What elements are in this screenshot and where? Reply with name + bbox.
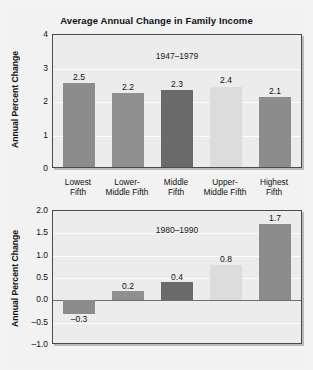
category-axis-labels: Lowest Fifth Lower- Middle Fifth Middle … <box>52 178 302 202</box>
bar-lowest-fifth <box>63 300 95 313</box>
bar-value-label: 2.1 <box>259 86 291 96</box>
y-tick-label: 0.0 <box>22 294 48 304</box>
category-label-line1: Lowest <box>65 177 91 187</box>
plot-area-top: 1947–1979 2.5 2.2 2.3 2.4 2.1 <box>52 34 302 168</box>
gridline <box>53 69 301 70</box>
bar-value-label: –0.3 <box>63 314 95 324</box>
category-label-line2: Fifth <box>266 187 282 197</box>
y-tick-label: 0.5 <box>22 272 48 282</box>
bar-value-label: 0.2 <box>112 281 144 291</box>
y-tick-label: 2.0 <box>22 205 48 215</box>
category-label-line2: Fifth <box>70 187 86 197</box>
bar-value-label: 2.4 <box>210 75 242 85</box>
chart-top: Annual Percent Change 4 3 2 1 0 1947–197… <box>6 28 307 178</box>
y-tick-labels-top: 4 3 2 1 0 <box>20 28 48 178</box>
category-label-line1: Lower- <box>114 177 139 187</box>
chart-bottom: Annual Percent Change 2.0 1.5 1.0 0.5 0.… <box>6 204 307 356</box>
page-title: Average Annual Change in Family Income <box>6 15 307 26</box>
y-tick-labels-bottom: 2.0 1.5 1.0 0.5 0.0 –0.5 –1.0 <box>18 204 48 356</box>
bar-highest-fifth <box>259 97 291 167</box>
bar-upper-middle-fifth <box>210 265 242 301</box>
bar-value-label: 2.3 <box>161 79 193 89</box>
y-tick-label: 3 <box>22 63 48 73</box>
bar-highest-fifth <box>259 224 291 300</box>
y-tick-label: –0.5 <box>22 317 48 327</box>
bar-upper-middle-fifth <box>210 87 242 167</box>
y-tick-label: 1.0 <box>22 250 48 260</box>
plot-area-bottom: 1980–1990 –0.3 0.2 0.4 0.8 1.7 <box>52 210 302 344</box>
bar-value-label: 0.4 <box>161 272 193 282</box>
figure-page: Average Annual Change in Family Income A… <box>0 0 313 370</box>
category-label-line1: Middle <box>164 177 188 187</box>
bar-lower-middle-fifth <box>112 291 144 300</box>
figure-inner: Average Annual Change in Family Income A… <box>6 6 307 364</box>
bar-middle-fifth <box>161 282 193 300</box>
category-label-line1: Upper- <box>212 177 237 187</box>
y-tick-label: 2 <box>22 96 48 106</box>
bar-lower-middle-fifth <box>112 93 144 167</box>
category-label-highest-fifth: Highest Fifth <box>240 178 308 197</box>
period-annotation-top: 1947–1979 <box>53 51 301 61</box>
bar-middle-fifth <box>161 90 193 167</box>
category-label-line1: Highest <box>260 177 288 187</box>
y-tick-label: –1.0 <box>22 339 48 349</box>
bar-value-label: 2.5 <box>63 72 95 82</box>
y-tick-label: 0 <box>22 163 48 173</box>
y-tick-label: 4 <box>22 29 48 39</box>
bar-value-label: 2.2 <box>112 82 144 92</box>
y-tick-label: 1.5 <box>22 227 48 237</box>
category-label-line2: Fifth <box>168 187 184 197</box>
bar-value-label: 1.7 <box>259 213 291 223</box>
bar-value-label: 0.8 <box>210 254 242 264</box>
bar-lowest-fifth <box>63 83 95 167</box>
y-tick-label: 1 <box>22 130 48 140</box>
